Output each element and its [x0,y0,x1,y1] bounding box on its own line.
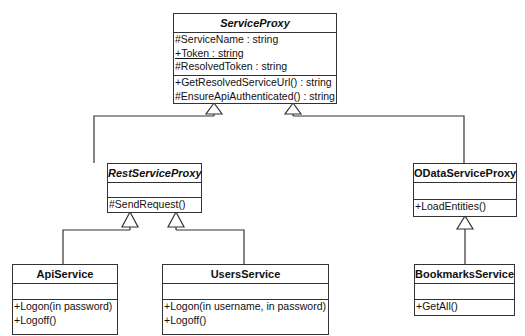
triangle-arrow-icon [285,103,301,114]
class-bookmarks-service[interactable]: BookmarksService +GetAll() [414,264,515,316]
attributes-section [13,284,117,300]
class-rest-service-proxy[interactable]: RestServiceProxy #SendRequest() [107,163,202,213]
operation: #SendRequest() [109,198,200,212]
class-name: UsersService [163,265,328,284]
attributes-section: #ServiceName : string +Token : string #R… [174,33,336,76]
operation: +Logon(in username, in password) [164,300,327,314]
attribute: +Token : string [175,47,335,61]
class-name: ODataServiceProxy [414,164,516,183]
operation: +Logoff() [14,314,116,328]
operation: +LoadEntities() [415,200,515,214]
triangle-arrow-icon [122,212,138,227]
class-users-service[interactable]: UsersService +Logon(in username, in pass… [162,264,329,335]
operations-section: +Logon(in password) +Logoff() [13,300,117,327]
class-api-service[interactable]: ApiService +Logon(in password) +Logoff() [12,264,118,335]
attributes-section [108,183,201,198]
attribute: #ResolvedToken : string [175,60,335,74]
attributes-section [415,284,514,300]
operations-section: +Logon(in username, in password) +Logoff… [163,300,328,327]
class-name: RestServiceProxy [108,164,201,183]
class-name: BookmarksService [415,265,514,284]
class-odata-service-proxy[interactable]: ODataServiceProxy +LoadEntities() [413,163,517,217]
operations-section: +GetAll() [415,300,514,314]
attribute: #ServiceName : string [175,33,335,47]
attributes-section [414,183,516,200]
operation: +Logoff() [164,314,327,328]
operations-section: +GetResolvedServiceUrl() : string #Ensur… [174,76,336,103]
class-name: ApiService [13,265,117,284]
operation: +GetResolvedServiceUrl() : string [175,76,335,90]
operations-section: #SendRequest() [108,198,201,212]
operation: +Logon(in password) [14,300,116,314]
operation: +GetAll() [416,300,513,314]
triangle-arrow-icon [206,103,222,114]
triangle-arrow-icon [168,212,184,227]
operations-section: +LoadEntities() [414,200,516,214]
class-name: ServiceProxy [174,14,336,33]
operation: #EnsureApiAuthenticated() : string [175,90,335,104]
class-service-proxy[interactable]: ServiceProxy #ServiceName : string +Toke… [173,13,337,104]
triangle-arrow-icon [457,216,473,229]
attributes-section [163,284,328,300]
